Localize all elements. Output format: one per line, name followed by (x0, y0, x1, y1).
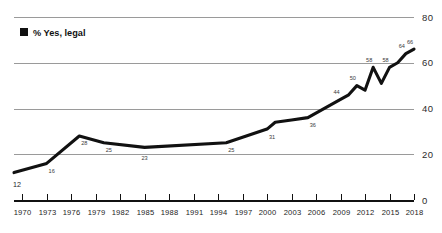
x-tick-label-1994: 1994 (210, 208, 228, 217)
point-label-2013: 58 (366, 57, 372, 63)
y-tick-label-60: 60 (422, 57, 433, 68)
x-tick-label-2000: 2000 (259, 208, 277, 217)
x-tick-label-2006: 2006 (308, 208, 326, 217)
legend: % Yes, legal (20, 28, 85, 38)
x-tick-label-1991: 1991 (186, 208, 204, 217)
x-tick-label-1973: 1973 (39, 208, 57, 217)
point-label-2018: 66 (407, 39, 413, 45)
x-tick-label-2015: 2015 (382, 208, 400, 217)
y-tick-label-40: 40 (422, 103, 433, 114)
x-tick-labels-group: 1970197319761979198219851988199119941997… (14, 208, 424, 217)
y-tick-label-0: 0 (422, 195, 428, 206)
x-tick-label-2018: 2018 (406, 208, 424, 217)
y-tick-label-80: 80 (422, 12, 433, 23)
x-tick-label-1970: 1970 (14, 208, 32, 217)
legend-label: % Yes, legal (33, 28, 85, 38)
x-tick-label-1976: 1976 (63, 208, 81, 217)
legend-marker-square (20, 28, 28, 36)
line-chart: 020406080 197019731976197919821985198819… (0, 0, 442, 233)
point-label-2011: 50 (350, 75, 356, 81)
point-labels-group: 1216282523253136445058586466 (13, 39, 413, 189)
point-label-2009: 44 (333, 89, 339, 95)
point-label-1985: 23 (141, 155, 147, 161)
x-tick-label-1985: 1985 (137, 208, 155, 217)
point-label-2017: 64 (399, 43, 405, 49)
gridlines-group (14, 18, 414, 155)
point-label-1977: 28 (81, 140, 87, 146)
x-tick-label-1988: 1988 (161, 208, 179, 217)
point-label-1969: 12 (13, 180, 21, 189)
x-tick-label-2012: 2012 (357, 208, 375, 217)
x-tick-marks-group (23, 194, 415, 200)
y-tick-labels-group: 020406080 (422, 12, 433, 206)
point-label-1995: 25 (228, 147, 234, 153)
y-tick-label-20: 20 (422, 149, 433, 160)
chart-svg: 020406080 197019731976197919821985198819… (0, 0, 442, 233)
x-tick-label-2009: 2009 (333, 208, 351, 217)
x-tick-label-1997: 1997 (235, 208, 253, 217)
point-label-2000: 31 (269, 134, 275, 140)
x-tick-label-2003: 2003 (284, 208, 302, 217)
point-label-1973: 16 (49, 168, 55, 174)
x-tick-label-1979: 1979 (88, 208, 106, 217)
x-tick-label-1982: 1982 (112, 208, 130, 217)
point-label-2015: 58 (382, 57, 388, 63)
point-label-2005: 36 (310, 122, 316, 128)
point-label-1980: 25 (106, 147, 112, 153)
